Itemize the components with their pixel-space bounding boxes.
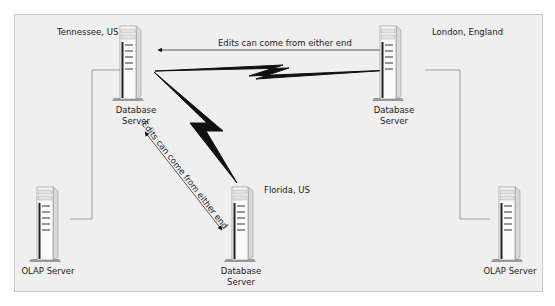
lan-link-right <box>425 70 490 219</box>
server-label-line1: Database <box>96 105 176 116</box>
server-icon-london <box>372 26 404 101</box>
server-icon-olap-right <box>491 187 523 262</box>
location-label-tennessee: Tennessee, US <box>57 27 118 38</box>
server-label-olap-right: OLAP Server <box>470 266 550 277</box>
server-label-london: Database Server <box>354 105 434 127</box>
server-label-line1: Database <box>201 266 281 277</box>
server-label-line2: Server <box>96 116 176 127</box>
server-label-florida: Database Server <box>201 266 281 288</box>
server-icon-olap-left <box>29 187 61 262</box>
lan-link-left <box>70 70 125 219</box>
wan-bolt-tn-london <box>155 65 392 79</box>
server-label-line1: Database <box>354 105 434 116</box>
location-label-florida: Florida, US <box>264 185 310 196</box>
server-label-line2: Server <box>201 277 281 288</box>
location-label-london: London, England <box>432 27 503 38</box>
server-label-line2: Server <box>354 116 434 127</box>
wan-bolt-tn-florida <box>154 72 237 183</box>
server-label-olap-left: OLAP Server <box>8 266 88 277</box>
edge-label-tn-london: Edits can come from either end <box>218 38 352 48</box>
server-label-tennessee: Database Server <box>96 105 176 127</box>
